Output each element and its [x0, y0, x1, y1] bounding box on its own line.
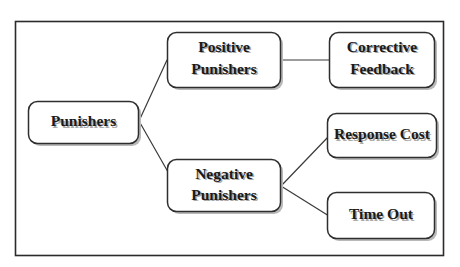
node-negative-punishers-line1: Negative — [195, 165, 253, 182]
node-time-out: Time Out Time Out — [328, 193, 438, 242]
node-time-out-label: Time Out — [349, 205, 414, 222]
punishers-diagram: Punishers Punishers Positive Positive Pu… — [0, 0, 460, 267]
node-negative-punishers-line2: Punishers — [191, 186, 256, 203]
node-negative-punishers: Negative Negative Punishers Punishers — [168, 160, 284, 215]
node-positive-punishers: Positive Positive Punishers Punishers — [168, 33, 284, 91]
node-corrective-feedback: Corrective Corrective Feedback Feedback — [330, 33, 438, 91]
node-positive-punishers-line2: Punishers — [191, 60, 256, 77]
node-positive-punishers-line1: Positive — [198, 38, 250, 55]
node-corrective-feedback-line2: Feedback — [350, 60, 414, 77]
node-response-cost: Response Cost Response Cost — [328, 114, 440, 161]
node-corrective-feedback-line1: Corrective — [347, 38, 417, 55]
node-response-cost-label: Response Cost — [334, 125, 431, 142]
node-punishers-label: Punishers — [51, 112, 116, 129]
node-punishers: Punishers Punishers — [29, 102, 142, 147]
